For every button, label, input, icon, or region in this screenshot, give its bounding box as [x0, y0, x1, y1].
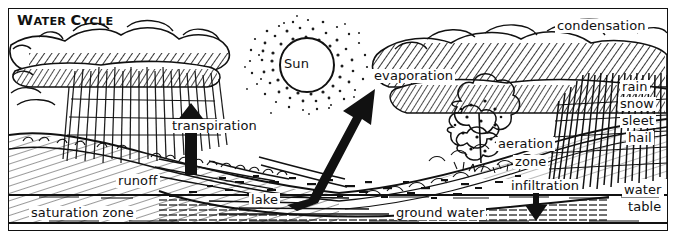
label-evaporation: evaporation	[372, 69, 455, 83]
label-lake: lake	[249, 193, 280, 207]
label-rain: rain	[620, 80, 650, 94]
title-rest-2: YCLE	[82, 15, 114, 28]
label-condensation: condensation	[555, 19, 648, 33]
label-runoff: runoff	[116, 174, 160, 188]
label-ground-water: ground water	[394, 206, 486, 220]
label-snow: snow	[618, 97, 656, 111]
label-transpiration: transpiration	[170, 119, 259, 133]
water-cycle-diagram: WATER CYCLE Sun condensation evaporation…	[0, 0, 678, 239]
page-title: WATER CYCLE	[17, 13, 113, 28]
label-saturation-zone: saturation zone	[29, 206, 136, 220]
label-infiltration: infiltration	[509, 179, 581, 193]
label-sleet: sleet	[620, 114, 656, 128]
label-aeration-zone-line2: zone	[513, 155, 548, 169]
label-sun: Sun	[282, 57, 311, 71]
title-rest-1: ATER	[33, 15, 70, 28]
label-water-table-line1: water	[622, 183, 664, 197]
water-cycle-illustration	[9, 9, 667, 230]
diagram-frame: WATER CYCLE Sun condensation evaporation…	[8, 8, 668, 231]
label-hail: hail	[626, 131, 654, 145]
title-cap-2: C	[70, 12, 81, 28]
label-water-table-line2: table	[626, 200, 663, 214]
label-aeration-zone-line1: aeration	[496, 137, 555, 151]
title-cap-1: W	[17, 12, 33, 28]
